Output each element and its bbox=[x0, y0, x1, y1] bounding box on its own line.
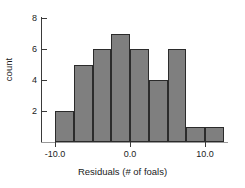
histogram-chart: 2468 -10.00.010.0 count Residuals (# of … bbox=[0, 0, 245, 188]
x-tick-mark bbox=[130, 142, 131, 147]
y-tick-mark bbox=[41, 111, 47, 112]
y-tick-mark bbox=[41, 80, 47, 81]
y-tick-mark bbox=[41, 49, 47, 50]
histogram-bar bbox=[111, 34, 130, 143]
x-tick-mark bbox=[205, 142, 206, 147]
histogram-bar bbox=[168, 49, 187, 142]
y-tick-label: 8 bbox=[17, 14, 37, 23]
y-tick-mark bbox=[41, 18, 47, 19]
y-axis-title: count bbox=[3, 50, 14, 90]
x-axis-title: Residuals (# of foals) bbox=[0, 166, 245, 177]
x-tick-label: -10.0 bbox=[35, 150, 75, 159]
histogram-bar bbox=[205, 127, 224, 143]
histogram-bar bbox=[186, 127, 205, 143]
histogram-bar bbox=[74, 65, 93, 143]
x-axis-line bbox=[41, 142, 228, 143]
y-tick-label: 4 bbox=[17, 76, 37, 85]
x-tick-label: 0.0 bbox=[110, 150, 150, 159]
histogram-bar bbox=[93, 49, 112, 142]
plot-area: 2468 -10.00.010.0 count Residuals (# of … bbox=[0, 0, 245, 188]
histogram-bar bbox=[130, 49, 149, 142]
y-tick-label: 6 bbox=[17, 45, 37, 54]
y-tick-label: 2 bbox=[17, 107, 37, 116]
histogram-bar bbox=[55, 111, 74, 142]
x-tick-label: 10.0 bbox=[185, 150, 225, 159]
histogram-bar bbox=[149, 80, 168, 142]
x-tick-mark bbox=[55, 142, 56, 147]
